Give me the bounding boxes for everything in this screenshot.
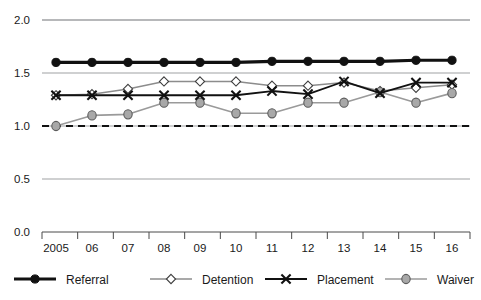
legend-item-referral[interactable]: Referral (14, 273, 109, 287)
x-axis-tick-label: 06 (86, 242, 99, 254)
x-axis-tick-label: 16 (446, 242, 459, 254)
data-point-marker-referral (232, 58, 240, 66)
data-point-marker-waiver (448, 89, 456, 98)
legend-label: Detention (202, 273, 253, 287)
legend-label: Placement (317, 273, 374, 287)
data-point-marker-waiver (124, 110, 132, 119)
x-axis-tick-labels: 20050607080910111213141516 (43, 242, 458, 254)
data-point-marker-waiver (232, 109, 240, 118)
data-point-marker-referral (340, 57, 348, 65)
data-point-marker-referral (304, 57, 312, 65)
legend-item-detention[interactable]: Detention (150, 273, 253, 287)
data-point-marker-referral (160, 58, 168, 66)
legend-label: Referral (66, 273, 109, 287)
data-point-marker-waiver (304, 98, 312, 107)
x-axis-tick-label: 12 (302, 242, 315, 254)
data-point-marker-referral (268, 57, 276, 65)
legend-item-placement[interactable]: Placement (265, 273, 374, 287)
data-point-marker-waiver (52, 121, 60, 130)
data-point-marker-detention (303, 81, 312, 90)
data-point-marker-waiver (412, 98, 420, 107)
data-point-marker-waiver (340, 98, 348, 107)
chart-legend: ReferralDetentionPlacementWaiver (14, 273, 474, 287)
y-axis-tick-label: 1.5 (14, 67, 30, 79)
y-axis-tick-label: 2.0 (14, 14, 30, 26)
data-point-marker-waiver (88, 111, 96, 120)
data-point-marker-referral (88, 58, 96, 66)
x-axis-tick-label: 07 (122, 242, 135, 254)
data-point-marker-referral (448, 56, 456, 64)
data-point-marker-referral (376, 57, 384, 65)
data-point-marker-detention (159, 77, 168, 86)
data-point-marker-referral (412, 56, 420, 64)
data-point-marker-detention (231, 77, 240, 86)
x-axis-tick-label: 14 (374, 242, 387, 254)
x-axis-tick-label: 15 (410, 242, 423, 254)
line-chart: 0.00.51.01.52.0 200506070809101112131415… (0, 0, 481, 300)
series-line-referral (56, 60, 452, 62)
y-axis-tick-labels: 0.00.51.01.52.0 (14, 14, 30, 238)
chart-container: 0.00.51.01.52.0 200506070809101112131415… (0, 0, 481, 300)
y-axis-tick-label: 0.0 (14, 226, 30, 238)
data-point-marker-referral (124, 58, 132, 66)
data-point-marker-referral (196, 58, 204, 66)
x-axis-tick-label: 10 (230, 242, 243, 254)
legend-label: Waiver (437, 273, 474, 287)
data-series (51, 56, 456, 130)
series-line-waiver (56, 92, 452, 126)
data-point-marker-detention (195, 77, 204, 86)
x-axis-tick-label: 11 (266, 242, 278, 254)
x-axis-tick-label: 09 (194, 242, 207, 254)
y-axis-tick-label: 0.5 (14, 173, 30, 185)
y-axis-tick-label: 1.0 (14, 120, 30, 132)
x-axis-tick-label: 2005 (43, 242, 69, 254)
legend-item-waiver[interactable]: Waiver (385, 273, 474, 287)
data-point-marker-referral (31, 275, 39, 283)
data-point-marker-waiver (402, 274, 410, 283)
x-axis (42, 232, 470, 239)
series-referral (52, 56, 456, 66)
x-axis-tick-label: 08 (158, 242, 171, 254)
x-axis-tick-label: 13 (338, 242, 351, 254)
data-point-marker-detention (166, 274, 175, 283)
data-point-marker-referral (52, 58, 60, 66)
data-point-marker-waiver (268, 109, 276, 118)
